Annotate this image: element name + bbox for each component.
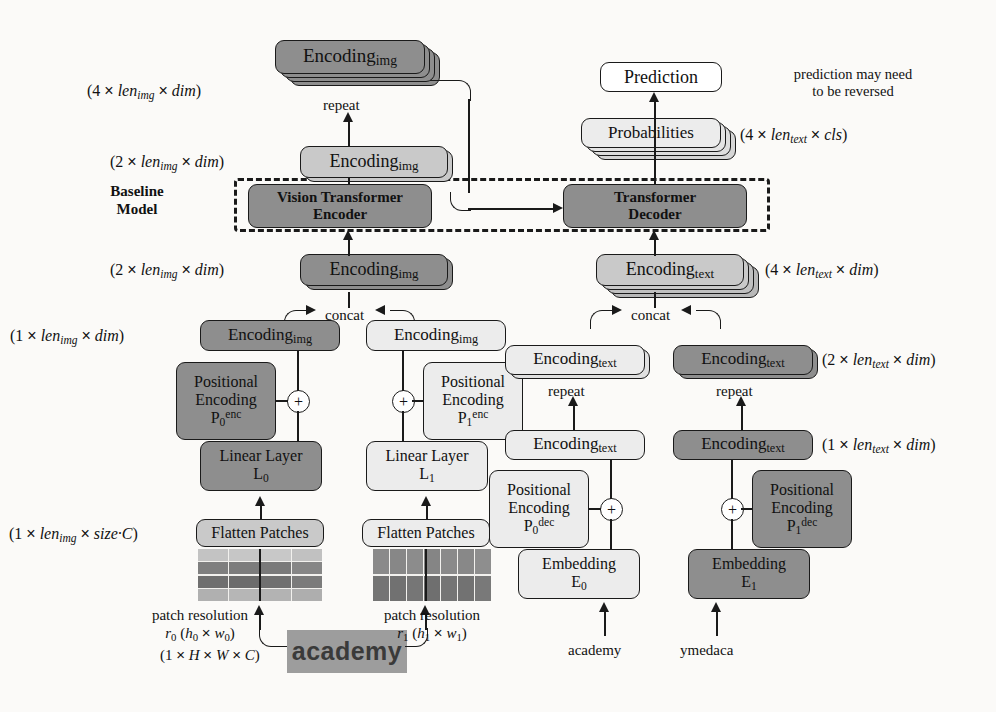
repeat-text-right-label: repeat [716, 382, 753, 400]
vision-transformer-encoder-box[interactable]: Vision Transformer Encoder [248, 184, 432, 228]
concat-text-left-arrowhead [612, 305, 622, 315]
col2-vertical-dec [610, 460, 612, 499]
shape-img-2x-top: (2 × lenimg × dim) [110, 152, 224, 174]
pos-enc-p1-line1: Positional [441, 373, 505, 391]
embedding-e0-line2: E0 [571, 573, 587, 593]
linear-layer-l0-line1: Linear Layer [219, 447, 302, 465]
pos-dec-p1-line1: Positional [770, 481, 834, 499]
pos-enc-p1-line3: P1enc [458, 408, 489, 429]
enc-text-1x-left-text: Encodingtext [533, 434, 617, 456]
enc-img-4x-text: Encodingimg [303, 45, 397, 69]
repeat-img-line [348, 120, 350, 148]
enc-to-dec-corner-top [430, 80, 471, 101]
linear-layer-l1-box: Linear Layer L1 [366, 441, 488, 491]
patch-res-1-line1: patch resolution [384, 607, 480, 623]
col3-vertical-dec-lower [731, 519, 733, 549]
baseline-model-label-line1: Baseline [110, 183, 163, 199]
pos-dec-p1-line3: P1dec [787, 516, 818, 537]
flatten-patches-0-text: Flatten Patches [211, 524, 308, 542]
decoder-to-prediction-line [654, 101, 656, 184]
enc-img-1x-right-box: Encodingimg [366, 320, 506, 351]
col3-vertical-dec [731, 460, 733, 499]
plus-enc-0-sign: + [294, 393, 303, 411]
probabilities-box: Probabilities [581, 118, 721, 148]
patchgrid1-internal-line [425, 549, 427, 601]
enc-img-2x-to-encoder-arrowhead [343, 230, 353, 240]
linear-layer-l1-line1: Linear Layer [385, 447, 468, 465]
baseline-model-label-line2: Model [117, 201, 158, 217]
concat-img-left-arrowhead [306, 305, 316, 315]
shape-text-1x: (1 × lentext × dim) [822, 435, 936, 457]
concat-text-right-curve [696, 310, 721, 329]
enc-img-4x-box: Encodingimg [275, 40, 425, 74]
flatten-patches-1-text: Flatten Patches [377, 524, 474, 542]
enc-text-2x-left-text: Encodingtext [533, 349, 617, 371]
enc-text-1x-right-box: Encodingtext [673, 430, 813, 460]
enc-text-2x-right-text: Encodingtext [701, 349, 785, 371]
pos-enc-1-to-plus-line [412, 400, 424, 402]
positional-encoding-p0-dec-box: Positional Encoding P0dec [489, 470, 589, 548]
flatten1-to-linear1-arrowhead [421, 496, 431, 506]
concat-img-right-arrowhead [375, 305, 385, 315]
enc-img-2x-bottom-box: Encodingimg [300, 254, 448, 286]
enc-img-2x-top-text: Encodingimg [329, 151, 418, 174]
embedding-e1-line2: E1 [741, 573, 757, 593]
baseline-model-label: Baseline Model [62, 182, 212, 218]
patch-res-0-line2: r0 (h0 × w0) [165, 625, 235, 641]
decoder-to-prediction-arrowhead [649, 92, 659, 102]
pos-enc-p1-line2: Encoding [442, 391, 503, 409]
enc-text-2x-left-box: Encodingtext [505, 345, 645, 375]
embedding-e1-line1: Embedding [712, 555, 786, 573]
linear-layer-l0-box: Linear Layer L0 [200, 441, 322, 491]
concat-text-right-arrowhead [681, 305, 691, 315]
col2-vertical-dec-lower [610, 519, 612, 549]
repeat-text-left-line [573, 405, 575, 431]
plus-enc-1-sign: + [399, 393, 408, 411]
prediction-text: Prediction [624, 67, 698, 87]
enc-text-2x-right-box: Encodingtext [673, 345, 813, 375]
pos-dec-p0-line1: Positional [507, 481, 571, 499]
encoder-label-line1: Vision Transformer [277, 189, 403, 206]
enc-img-1x-right-text: Encodingimg [394, 325, 478, 347]
pos-dec-p0-line2: Encoding [508, 499, 569, 517]
plus-enc-0: + [287, 390, 310, 413]
positional-encoding-p1-dec-box: Positional Encoding P1dec [752, 470, 852, 548]
input-text-0-arrowhead [599, 602, 609, 612]
encoder-label-line2: Encoder [313, 206, 367, 223]
concat-text-label: concat [631, 306, 670, 324]
shape-img-flat: (1 × lenimg × size·C) [9, 524, 138, 546]
prediction-box: Prediction [600, 62, 722, 92]
input-text-1-arrowhead [711, 602, 721, 612]
col1-vertical-enc [402, 351, 404, 391]
linear-layer-l0-line2: L0 [253, 465, 269, 485]
diagram-canvas: Baseline Model Encodingimg (4 × lenimg ×… [0, 0, 996, 712]
plus-dec-1-sign: + [728, 501, 737, 519]
shape-img-raw: (1 × H × W × C) [160, 646, 260, 664]
pos-enc-0-to-plus-line [276, 400, 288, 402]
linear-layer-l1-line2: L1 [419, 465, 435, 485]
pos-enc-p0-line1: Positional [194, 373, 258, 391]
pos-dec-p0-line3: P0dec [524, 516, 555, 537]
pos-enc-p0-line2: Encoding [195, 391, 256, 409]
embedding-e0-line1: Embedding [542, 555, 616, 573]
col0-vertical-enc-lower [297, 411, 299, 441]
decoder-label-line1: Transformer [614, 189, 696, 206]
transformer-decoder-box[interactable]: Transformer Decoder [563, 184, 747, 228]
prediction-note: prediction may need to be reversed [748, 66, 958, 101]
repeat-text-right-line [741, 405, 743, 431]
enc-text-1x-left-box: Encodingtext [505, 430, 645, 460]
flatten1-to-linear1-line [426, 505, 428, 519]
positional-encoding-p1-enc-box: Positional Encoding P1enc [423, 362, 523, 440]
patch-resolution-1-caption: patch resolution r1 (h1 × w1) [352, 606, 512, 644]
repeat-img-label: repeat [323, 96, 360, 114]
enc-img-2x-to-encoder-line [348, 238, 350, 256]
input-text-0-label: academy [568, 641, 621, 659]
shape-text-4x: (4 × lentext × dim) [765, 260, 879, 282]
probabilities-text: Probabilities [608, 123, 694, 142]
shape-prob-4x: (4 × lentext × cls) [740, 125, 847, 147]
enc-text-4x-text: Encodingtext [626, 259, 714, 282]
input-text-0-line [604, 610, 606, 636]
patchgrid0-internal-line [259, 549, 261, 601]
repeat-text-left-label: repeat [548, 382, 585, 400]
patch-res-1-line2: r1 (h1 × w1) [397, 625, 467, 641]
